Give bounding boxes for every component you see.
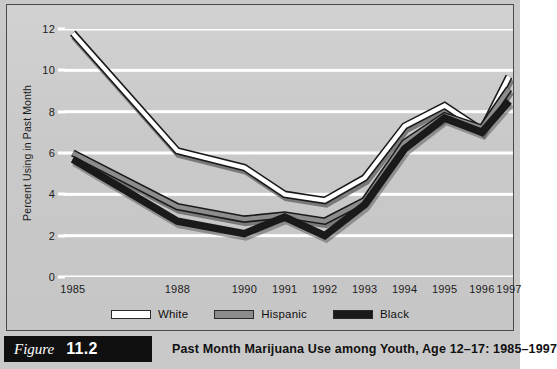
y-axis-title-container: Percent Using in Past Month: [19, 29, 35, 277]
legend-swatch-black: [333, 310, 373, 319]
y-tick-label-4: 4: [49, 188, 55, 200]
series-black: [73, 101, 511, 238]
x-tick-label-1992: 1992: [312, 283, 337, 295]
x-tick-label-1985: 1985: [60, 283, 85, 295]
gridline-6: [64, 152, 513, 155]
figure-label: Figure: [14, 341, 54, 358]
plot-area: [64, 29, 513, 277]
x-tick-label-1988: 1988: [165, 283, 190, 295]
x-tick-label-1991: 1991: [272, 283, 297, 295]
x-tick-label-1990: 1990: [232, 283, 257, 295]
legend-swatch-hispanic: [214, 310, 254, 319]
legend-item-white[interactable]: White: [111, 308, 188, 320]
y-tick-label-6: 6: [49, 147, 55, 159]
legend-swatch-white: [111, 310, 151, 319]
gridline-0: [64, 276, 513, 278]
x-tick-label-1996: 1996: [469, 283, 494, 295]
x-tick-label-1993: 1993: [352, 283, 377, 295]
gridline-2: [64, 234, 513, 237]
chart-legend: WhiteHispanicBlack: [7, 308, 513, 320]
figure-number: 11.2: [66, 340, 97, 358]
legend-label-hispanic: Hispanic: [261, 308, 307, 320]
legend-label-white: White: [158, 308, 188, 320]
y-tick-label-10: 10: [42, 64, 55, 76]
y-tick-label-12: 12: [42, 23, 55, 35]
y-tick-label-2: 2: [49, 230, 55, 242]
figure-caption-bar: Figure 11.2 Past Month Marijuana Use amo…: [0, 334, 520, 369]
chart-panel: Percent Using in Past Month 024681012 19…: [6, 4, 514, 331]
gridline-10: [64, 69, 513, 72]
y-axis-title: Percent Using in Past Month: [21, 85, 33, 221]
legend-item-black[interactable]: Black: [333, 308, 409, 320]
y-tick-label-8: 8: [49, 106, 55, 118]
figure-caption-text: Past Month Marijuana Use among Youth, Ag…: [172, 336, 557, 362]
legend-label-black: Black: [380, 308, 409, 320]
y-tick-label-0: 0: [49, 271, 55, 283]
x-tick-label-1994: 1994: [392, 283, 417, 295]
gridline-12: [64, 29, 513, 31]
legend-item-hispanic[interactable]: Hispanic: [214, 308, 307, 320]
x-tick-label-1997: 1997: [496, 283, 521, 295]
plot-svg: [64, 29, 513, 277]
figure-number-tab: Figure 11.2: [4, 336, 152, 362]
x-tick-label-1995: 1995: [432, 283, 457, 295]
